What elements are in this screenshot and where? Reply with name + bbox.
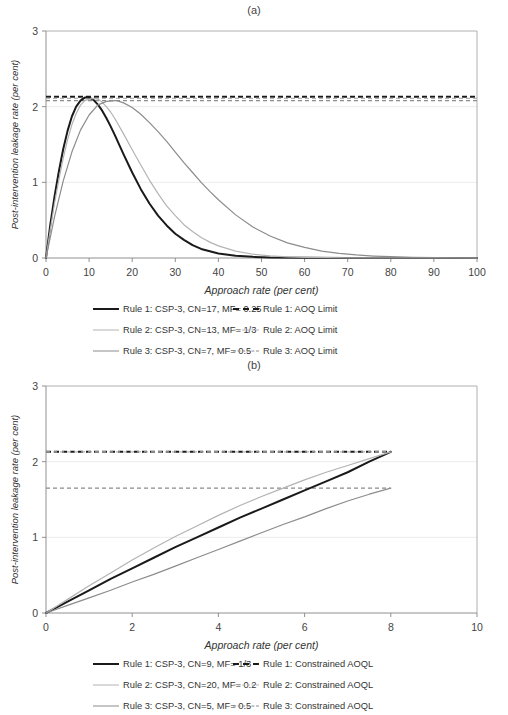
legend-b: Rule 1: CSP-3, CN=9, MF= 1/3Rule 1: Cons… (0, 653, 508, 715)
figure-a-legend-swatch-1 (93, 304, 119, 314)
figure-b-legend-swatch-4 (233, 680, 259, 690)
figure-a-legend-swatch-5 (93, 346, 119, 356)
series-line-1 (46, 452, 391, 613)
figure-b-legend-swatch-2 (233, 659, 259, 669)
figure-a-legend-swatch-6 (233, 346, 259, 356)
figure-a-legend-item-4[interactable]: Rule 2: AOQ Limit (215, 325, 415, 335)
figure-a-legend-row: Rule 2: CSP-3, CN=13, MF= 1/3Rule 2: AOQ… (0, 319, 508, 340)
xtick-label-6: 6 (302, 621, 308, 633)
figure-a: (a) 01230102030405060708090100Approach r… (0, 0, 508, 355)
xtick-label-90: 90 (428, 266, 440, 278)
legend-a: Rule 1: CSP-3, CN=17, MF= 0.25Rule 1: AO… (0, 298, 508, 361)
series-line-1 (46, 98, 477, 258)
y-axis-title: Post-intervention leakage rate (per cent… (9, 60, 20, 230)
xtick-label-50: 50 (256, 266, 268, 278)
figure-a-legend-label-4: Rule 2: AOQ Limit (263, 325, 337, 335)
y-axis-title: Post-intervention leakage rate (per cent… (9, 415, 20, 585)
figure-b-legend-item-6[interactable]: Rule 3: Constrained AOQL (215, 701, 415, 711)
figure-b-legend-row: Rule 2: CSP-3, CN=20, MF= 0.2Rule 2: Con… (0, 674, 508, 695)
xtick-label-100: 100 (468, 266, 486, 278)
figure-b-legend-row: Rule 3: CSP-3, CN=5, MF= 0.5Rule 3: Cons… (0, 695, 508, 715)
figure-b-legend-swatch-3 (93, 680, 119, 690)
ytick-label-0: 0 (32, 252, 38, 264)
figure-b-legend-label-4: Rule 2: Constrained AOQL (263, 680, 373, 690)
xtick-label-4: 4 (215, 621, 221, 633)
figure-b-legend-swatch-6 (233, 701, 259, 711)
ytick-label-3: 3 (32, 25, 38, 37)
xtick-label-70: 70 (342, 266, 354, 278)
ytick-label-1: 1 (32, 176, 38, 188)
x-axis-title: Approach rate (per cent) (204, 639, 319, 651)
chart-b-svg: 01230246810Approach rate (per cent)Post-… (0, 355, 508, 655)
figure-b-legend-item-4[interactable]: Rule 2: Constrained AOQL (215, 680, 415, 690)
xtick-label-0: 0 (43, 621, 49, 633)
plot-area-b: 01230246810Approach rate (per cent)Post-… (0, 355, 508, 655)
xtick-label-2: 2 (129, 621, 135, 633)
figure-b-legend-swatch-1 (93, 659, 119, 669)
figure-b-legend-label-6: Rule 3: Constrained AOQL (263, 701, 373, 711)
xtick-label-10: 10 (471, 621, 483, 633)
figure-b-legend-row: Rule 1: CSP-3, CN=9, MF= 1/3Rule 1: Cons… (0, 653, 508, 674)
series-line-2 (46, 98, 477, 258)
xtick-label-0: 0 (43, 266, 49, 278)
ytick-label-3: 3 (32, 380, 38, 392)
figure-b-legend-swatch-5 (93, 701, 119, 711)
figure-b-legend-item-3[interactable]: Rule 2: CSP-3, CN=20, MF= 0.2 (0, 680, 215, 690)
figure-b-legend-label-2: Rule 1: Constrained AOQL (263, 659, 373, 669)
figure-b-legend-item-2[interactable]: Rule 1: Constrained AOQL (215, 659, 415, 669)
xtick-label-8: 8 (388, 621, 394, 633)
figure-b-legend-item-1[interactable]: Rule 1: CSP-3, CN=9, MF= 1/3 (0, 659, 215, 669)
figure-a-legend-item-6[interactable]: Rule 3: AOQ Limit (215, 346, 415, 356)
series-line-3 (46, 488, 391, 613)
x-axis-title: Approach rate (per cent) (204, 284, 319, 296)
ytick-label-2: 2 (32, 101, 38, 113)
figure-a-legend-swatch-4 (233, 325, 259, 335)
figure-a-legend-swatch-2 (233, 304, 259, 314)
ytick-label-1: 1 (32, 531, 38, 543)
xtick-label-60: 60 (299, 266, 311, 278)
xtick-label-40: 40 (213, 266, 225, 278)
ytick-label-2: 2 (32, 456, 38, 468)
figure-a-legend-item-5[interactable]: Rule 3: CSP-3, CN=7, MF= 0.5 (0, 346, 215, 356)
figure-a-legend-row: Rule 1: CSP-3, CN=17, MF= 0.25Rule 1: AO… (0, 298, 508, 319)
figure-a-legend-label-2: Rule 1: AOQ Limit (263, 304, 337, 314)
plot-area-a: 01230102030405060708090100Approach rate … (0, 0, 508, 300)
ytick-label-0: 0 (32, 607, 38, 619)
figure-b-legend-item-5[interactable]: Rule 3: CSP-3, CN=5, MF= 0.5 (0, 701, 215, 711)
figure-a-legend-swatch-3 (93, 325, 119, 335)
figure-a-legend-item-3[interactable]: Rule 2: CSP-3, CN=13, MF= 1/3 (0, 325, 215, 335)
figure-b: (b) 01230246810Approach rate (per cent)P… (0, 355, 508, 710)
figure-a-legend-label-6: Rule 3: AOQ Limit (263, 346, 337, 356)
xtick-label-20: 20 (126, 266, 138, 278)
chart-a-svg: 01230102030405060708090100Approach rate … (0, 0, 508, 300)
figure-a-legend-item-1[interactable]: Rule 1: CSP-3, CN=17, MF= 0.25 (0, 304, 215, 314)
xtick-label-80: 80 (385, 266, 397, 278)
xtick-label-30: 30 (169, 266, 181, 278)
xtick-label-10: 10 (83, 266, 95, 278)
figure-a-legend-item-2[interactable]: Rule 1: AOQ Limit (215, 304, 415, 314)
